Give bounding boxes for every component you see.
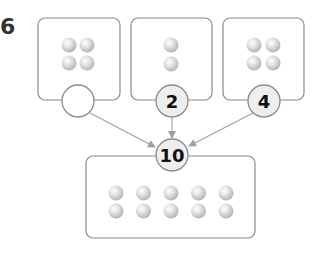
number-bond-diagram: 2 4 10 bbox=[0, 0, 325, 254]
counter-ball bbox=[266, 38, 281, 53]
counter-ball bbox=[136, 186, 151, 201]
counter-ball bbox=[109, 186, 124, 201]
counter-ball bbox=[80, 56, 95, 71]
counter-ball bbox=[219, 186, 234, 201]
counter-ball bbox=[247, 56, 262, 71]
counter-ball bbox=[219, 204, 234, 219]
counter-ball bbox=[164, 204, 179, 219]
counter-ball bbox=[164, 38, 179, 53]
counter-ball bbox=[164, 186, 179, 201]
counter-ball bbox=[62, 56, 77, 71]
counter-ball bbox=[80, 38, 95, 53]
number-circle-4-text: 4 bbox=[258, 91, 271, 112]
counter-ball bbox=[247, 38, 262, 53]
counter-ball bbox=[191, 186, 206, 201]
counter-ball bbox=[62, 38, 77, 53]
arrow-group-3-to-total bbox=[189, 113, 253, 146]
counter-ball bbox=[191, 204, 206, 219]
counter-ball bbox=[266, 56, 281, 71]
number-circle-2-text: 2 bbox=[166, 91, 179, 112]
answer-circle-empty[interactable] bbox=[62, 85, 94, 117]
counter-ball bbox=[164, 57, 179, 72]
arrow-group-1-to-total bbox=[90, 113, 155, 147]
total-circle-text: 10 bbox=[159, 145, 184, 166]
counter-ball bbox=[109, 204, 124, 219]
counter-ball bbox=[136, 204, 151, 219]
